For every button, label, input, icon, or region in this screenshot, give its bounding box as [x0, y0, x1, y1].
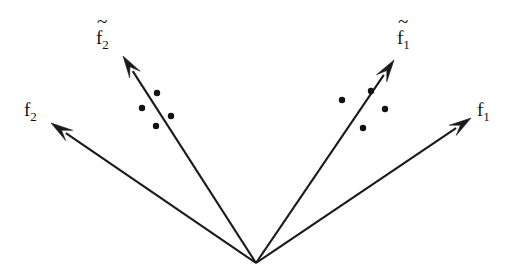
label-f1-tilde: ~ f1 [397, 11, 410, 52]
data-point-cluster-right [339, 88, 388, 131]
svg-text:f2: f2 [24, 99, 37, 124]
data-point [360, 125, 366, 131]
arrowhead-f1-icon [449, 118, 471, 135]
vector-shaft-f2-tilde [133, 71, 256, 263]
data-point [154, 90, 160, 96]
arrowhead-f2-icon [51, 123, 73, 141]
label-f2-subscript: 2 [30, 109, 37, 124]
data-point [368, 88, 374, 94]
data-point [168, 113, 174, 119]
data-point [153, 123, 159, 129]
label-f1-subscript: 1 [483, 109, 490, 124]
figure-canvas: f2 ~ f2 ~ f1 f1 [0, 0, 515, 276]
arrowhead-f1-tilde-icon [377, 60, 395, 82]
vector-arrowheads [51, 56, 471, 141]
vector-shaft-f1-tilde [256, 75, 384, 263]
label-f1-tilde-subscript: 1 [403, 37, 410, 52]
label-f2-tilde-subscript: 2 [102, 37, 109, 52]
label-f1: f1 [477, 99, 490, 124]
label-f2: f2 [24, 99, 37, 124]
vector-shaft-f1 [256, 128, 456, 263]
data-point [382, 106, 388, 112]
vector-shaft-f2 [66, 133, 256, 263]
arrowhead-f2-tilde-icon [123, 56, 140, 78]
svg-text:f1: f1 [477, 99, 490, 124]
label-f2-tilde: ~ f2 [96, 11, 109, 52]
data-point [139, 105, 145, 111]
data-point [339, 97, 345, 103]
vector-diagram-svg: f2 ~ f2 ~ f1 f1 [0, 0, 515, 276]
vector-shafts [66, 71, 456, 263]
